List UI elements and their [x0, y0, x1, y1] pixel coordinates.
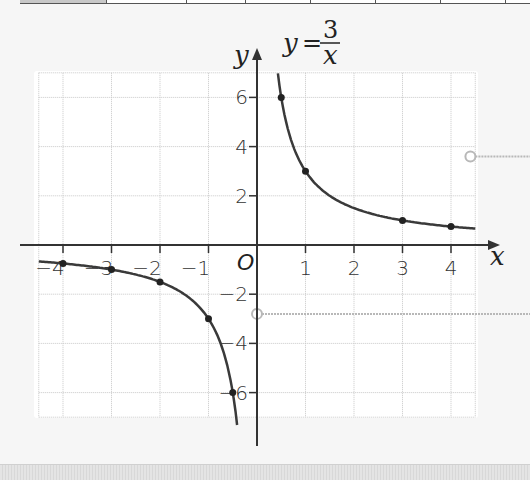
data-point [448, 223, 455, 230]
title-denominator: x [323, 40, 338, 70]
y-axis-arrow-icon [252, 48, 262, 60]
x-tick-label: 2 [348, 256, 361, 280]
chart-title: y = 3 x [282, 16, 340, 70]
data-point [108, 266, 115, 273]
data-point [229, 389, 236, 396]
data-point [302, 168, 309, 175]
title-equals: = [302, 29, 322, 57]
x-tick-label: 1 [299, 256, 312, 280]
x-tick-label: −1 [181, 256, 210, 280]
data-point [205, 315, 212, 322]
origin-label: O [237, 250, 254, 275]
page-footer-band [0, 464, 530, 480]
y-tick-label: 2 [235, 184, 248, 208]
x-axis-label: x [490, 241, 505, 271]
title-lhs: y [282, 28, 298, 58]
x-tick-label: −4 [35, 256, 64, 280]
y-tick-label: 6 [235, 85, 248, 109]
x-tick-label: 3 [396, 256, 409, 280]
y-axis-label: y [233, 40, 249, 70]
data-point [399, 217, 406, 224]
y-tick-label: 4 [235, 135, 248, 159]
data-point [60, 260, 67, 267]
x-tick-label: 4 [445, 256, 458, 280]
y-tick-label: −2 [219, 282, 248, 306]
data-point [278, 94, 285, 101]
callout-circle-icon [465, 151, 475, 161]
data-point [157, 278, 164, 285]
